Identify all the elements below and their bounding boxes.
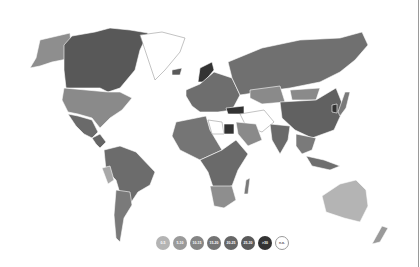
legend-label: 10-15	[193, 241, 202, 245]
region-egypt	[224, 124, 234, 134]
legend-swatch-over-30: >30	[258, 236, 272, 250]
legend-swatch-20-25: 20-25	[224, 236, 238, 250]
legend-label: 0-5	[160, 241, 165, 245]
region-australia	[322, 180, 368, 222]
region-argentina	[114, 190, 132, 242]
region-new-zealand	[372, 226, 388, 244]
legend-label: >30	[262, 241, 268, 245]
legend-swatch-na: n.a.	[275, 236, 289, 250]
legend-label: 15-20	[210, 241, 219, 245]
region-madagascar	[244, 178, 250, 194]
legend-label: n.a.	[279, 241, 285, 245]
legend-swatch-5-10: 5-10	[173, 236, 187, 250]
region-korea	[332, 104, 337, 113]
legend-swatch-10-15: 10-15	[190, 236, 204, 250]
legend-swatch-0-5: 0-5	[156, 236, 170, 250]
frame-border	[418, 0, 419, 267]
legend-label: 25-30	[244, 241, 253, 245]
legend-swatch-15-20: 15-20	[207, 236, 221, 250]
legend-label: 5-10	[176, 241, 183, 245]
legend-label: 20-25	[227, 241, 236, 245]
region-usa	[62, 88, 132, 128]
region-south-africa	[210, 186, 236, 208]
legend-swatch-25-30: 25-30	[241, 236, 255, 250]
region-mongolia	[290, 88, 320, 100]
region-canada	[64, 28, 148, 92]
region-india	[270, 124, 290, 154]
region-iceland	[172, 68, 182, 75]
region-indonesia	[306, 156, 340, 170]
region-russia	[228, 32, 368, 95]
map-legend: 0-5 5-10 10-15 15-20 20-25 25-30 >30 n.a…	[156, 236, 289, 250]
world-map	[0, 0, 420, 267]
